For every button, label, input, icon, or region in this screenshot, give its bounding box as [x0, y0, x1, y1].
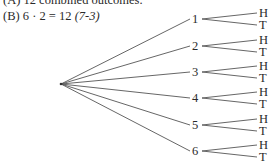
outcome-line: [202, 151, 257, 157]
node-label: 4: [192, 91, 199, 105]
branch-line: [61, 84, 190, 125]
outcome-line: [202, 46, 257, 52]
outcome-label-t: T: [259, 45, 267, 59]
outcome-line: [202, 98, 257, 104]
branch-1: 1HT: [61, 6, 268, 84]
outcome-line: [202, 40, 257, 46]
outcome-line: [202, 66, 257, 72]
branch-line: [61, 84, 190, 98]
branch-line: [61, 84, 190, 151]
outcome-line: [202, 92, 257, 98]
outcome-label-t: T: [259, 124, 267, 138]
outcome-label-t: T: [259, 71, 267, 85]
branch-5: 5HT: [61, 84, 268, 138]
outcome-line: [202, 145, 257, 151]
outcome-label-t: T: [259, 18, 267, 32]
node-label: 5: [192, 118, 198, 132]
outcome-line: [202, 19, 257, 25]
node-label: 1: [192, 12, 198, 26]
branch-4: 4HT: [61, 84, 268, 111]
root-node: [60, 83, 63, 86]
node-label: 6: [192, 144, 198, 158]
node-label: 3: [192, 65, 198, 79]
outcome-line: [202, 72, 257, 78]
branch-2: 2HT: [61, 33, 268, 84]
node-label: 2: [192, 39, 198, 53]
outcome-line: [202, 13, 257, 19]
outcome-line: [202, 119, 257, 125]
outcome-label-t: T: [259, 97, 267, 111]
outcome-line: [202, 125, 257, 131]
outcome-label-t: T: [259, 150, 267, 161]
tree-diagram: 1HT2HT3HT4HT5HT6HT: [0, 0, 278, 161]
branch-3: 3HT: [61, 59, 268, 85]
